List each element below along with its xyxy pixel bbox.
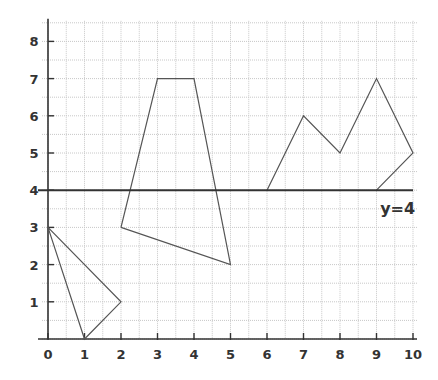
tick-labels: 01234567891012345678	[29, 34, 422, 362]
y-tick-label: 8	[29, 34, 38, 49]
coordinate-grid-graph: 01234567891012345678 y=4	[0, 0, 438, 380]
y-tick-label: 5	[29, 146, 38, 161]
x-tick-label: 2	[116, 347, 125, 362]
grid-lines	[42, 21, 417, 339]
y-tick-label: 3	[29, 220, 38, 235]
x-tick-label: 3	[153, 347, 162, 362]
y-tick-label: 4	[29, 183, 38, 198]
y-tick-label: 1	[29, 295, 38, 310]
axes	[38, 19, 417, 340]
x-tick-label: 5	[226, 347, 235, 362]
x-tick-label: 9	[372, 347, 381, 362]
x-tick-label: 4	[189, 347, 198, 362]
x-tick-label: 1	[80, 347, 89, 362]
y-tick-label: 2	[29, 258, 38, 273]
x-tick-label: 10	[404, 347, 422, 362]
x-tick-label: 0	[43, 347, 52, 362]
reference-line-y4: y=4	[38, 190, 415, 218]
x-tick-label: 7	[299, 347, 308, 362]
x-tick-label: 8	[335, 347, 344, 362]
y-tick-label: 6	[29, 109, 38, 124]
x-tick-label: 6	[262, 347, 271, 362]
y-tick-label: 7	[29, 72, 38, 87]
reference-line-label: y=4	[380, 199, 415, 218]
